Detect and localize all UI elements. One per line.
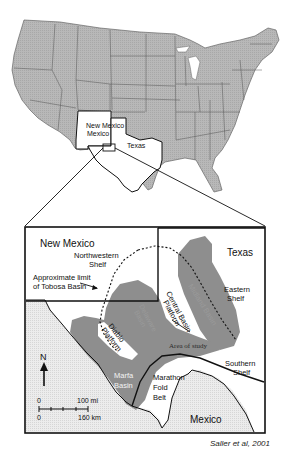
scale-miles-zero: 0 [37,397,41,404]
scale-km-label: 160 km [78,414,101,421]
label-marfa-basin-2: Basin [114,381,133,390]
label-tobosa-limit-2: of Tobosa Basin [33,282,86,291]
figure-credit: Saller et al, 2001 [210,439,270,448]
label-texas: Texas [227,247,253,258]
label-northwestern-shelf-1: Northwestern [74,251,119,260]
label-marfa-basin-1: Marfa [114,371,134,380]
detail-map: New Mexico Texas Mexico Northwestern She… [25,227,265,433]
label-new-mexico: New Mexico [40,238,95,249]
map-figure: New Mexico Mexico Texas New [0,0,288,457]
zoom-connector-left [25,148,103,226]
label-marathon-1: Marathon [153,373,185,382]
label-eastern-shelf-1: Eastern [224,285,250,294]
us-overview-map: New Mexico Mexico Texas [12,20,279,192]
label-marathon-3: Belt [153,393,167,402]
label-area-of-study: Area of study [169,342,208,350]
label-mexico: Mexico [190,414,222,425]
scale-miles-label: 100 mi [77,397,98,404]
label-new-mexico-small-2: Mexico [87,130,109,137]
label-southern-shelf-2: Shelf [233,368,251,377]
label-new-mexico-small: New Mexico [86,122,124,129]
label-northwestern-shelf-2: Shelf [89,260,107,269]
north-arrow-label: N [40,352,47,362]
label-texas-small: Texas [127,142,146,149]
label-marathon-2: Fold [153,383,168,392]
label-tobosa-limit-1: Approximate limit [33,273,91,282]
label-southern-shelf-1: Southern [225,359,255,368]
label-eastern-shelf-2: Shelf [227,294,245,303]
scale-km-zero: 0 [37,414,41,421]
